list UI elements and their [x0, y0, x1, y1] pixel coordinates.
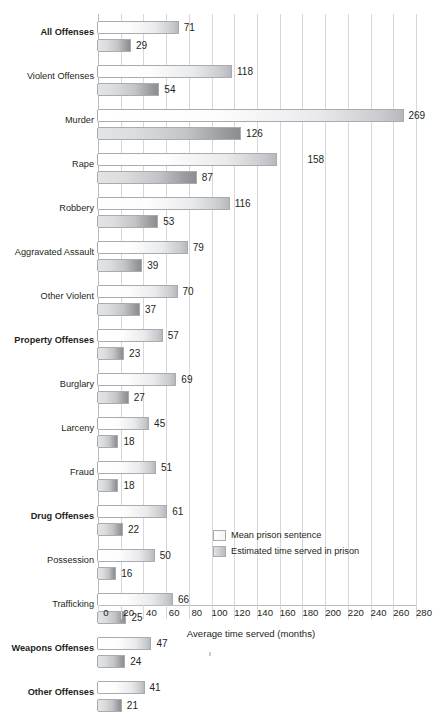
bar-left-edge — [97, 304, 98, 315]
chart-row: Weapons Offenses4724 — [98, 633, 416, 677]
legend-label: Mean prison sentence — [231, 530, 321, 540]
bar-left-edge — [97, 260, 98, 271]
bar-value-label: 41 — [150, 681, 161, 694]
bar-value-label: 70 — [183, 285, 194, 298]
bar-left-edge — [97, 286, 98, 297]
chart-row: Murder269126 — [98, 105, 416, 149]
chart-row: Violent Offenses11854 — [98, 61, 416, 105]
category-label: Possession — [0, 555, 94, 566]
x-tick-label-280: 280 — [416, 607, 432, 619]
bar-value-label: 118 — [237, 65, 253, 78]
bar-value-label: 57 — [168, 329, 179, 342]
bar-left-edge — [97, 374, 98, 385]
bar-served — [98, 435, 118, 448]
bar-value-label: 18 — [123, 435, 134, 448]
bar-left-edge — [97, 480, 98, 491]
x-tick-label-40: 40 — [146, 607, 157, 619]
bar-mean — [98, 461, 156, 474]
chart-row: Other Violent7037 — [98, 281, 416, 325]
category-label: Rape — [0, 159, 94, 170]
bar-served — [98, 479, 118, 492]
bar-value-label: 18 — [123, 479, 134, 492]
chart-row: Larceny4518 — [98, 413, 416, 457]
category-label: Drug Offenses — [0, 511, 94, 522]
bar-left-edge — [97, 436, 98, 447]
bar-value-label: 158 — [307, 153, 324, 166]
chart-row: All Offenses7129 — [98, 17, 416, 61]
legend-swatch — [213, 530, 226, 541]
bar-left-edge — [97, 506, 98, 517]
bar-value-label: 45 — [154, 417, 165, 430]
bar-mean — [98, 681, 145, 694]
bar-left-edge — [97, 40, 98, 51]
chart-legend: Mean prison sentenceEstimated time serve… — [213, 527, 359, 559]
plot-area: All Offenses7129Violent Offenses11854Mur… — [98, 14, 416, 605]
bar-mean — [98, 153, 277, 166]
legend-item: Mean prison sentence — [213, 527, 359, 543]
bar-value-label: 126 — [246, 127, 263, 140]
x-tick-label-260: 260 — [393, 607, 409, 619]
category-label: Other Offenses — [0, 687, 94, 698]
chart-row: Other Offenses4121 — [98, 677, 416, 716]
bar-left-edge — [97, 172, 98, 183]
bar-left-edge — [97, 392, 98, 403]
bar-left-edge — [97, 462, 98, 473]
bar-served — [98, 303, 140, 316]
bar-value-label: 53 — [163, 215, 174, 228]
category-label: Larceny — [0, 423, 94, 434]
bar-mean — [98, 549, 155, 562]
bar-left-edge — [97, 524, 98, 535]
chart-row: Rape15887 — [98, 149, 416, 193]
gridline-280 — [416, 14, 417, 605]
bar-value-label: 79 — [193, 241, 204, 254]
bar-value-label: 24 — [130, 655, 141, 668]
x-axis-title-text: Average time served (months) — [129, 628, 315, 639]
x-tick-label-240: 240 — [371, 607, 387, 619]
bar-served — [98, 127, 241, 140]
bar-served — [98, 83, 159, 96]
bar-mean — [98, 21, 179, 34]
x-tick-label-100: 100 — [212, 607, 228, 619]
bar-left-edge — [97, 66, 98, 77]
bar-served — [98, 39, 131, 52]
bar-left-edge — [97, 348, 98, 359]
chart-row: Fraud5118 — [98, 457, 416, 501]
legend-swatch — [213, 546, 226, 557]
category-label: Robbery — [0, 203, 94, 214]
bar-left-edge — [97, 154, 98, 165]
bar-left-edge — [97, 418, 98, 429]
bar-value-label: 22 — [128, 523, 139, 536]
bar-left-edge — [97, 594, 98, 605]
bar-left-edge — [97, 638, 98, 649]
bar-value-label: 71 — [184, 21, 195, 34]
bar-left-edge — [97, 330, 98, 341]
x-axis-ticks: 020406080100120140160180200220240260280 — [98, 607, 416, 623]
bar-value-label: 21 — [127, 699, 138, 712]
category-label: Trafficking — [0, 599, 94, 610]
category-label: Property Offenses — [0, 335, 94, 346]
bar-served — [98, 259, 142, 272]
x-tick-label-60: 60 — [169, 607, 180, 619]
x-tick-label-20: 20 — [123, 607, 134, 619]
category-label: Aggravated Assault — [0, 247, 94, 258]
bar-mean — [98, 329, 163, 342]
bar-left-edge — [97, 110, 98, 121]
x-tick-label-220: 220 — [348, 607, 364, 619]
bar-left-edge — [97, 22, 98, 33]
chart-row: Robbery11653 — [98, 193, 416, 237]
x-tick-mark-0 — [98, 605, 99, 619]
bar-served — [98, 391, 129, 404]
x-tick-mark-80 — [189, 605, 190, 619]
bar-served — [98, 523, 123, 536]
bar-served — [98, 699, 122, 712]
page-artifact — [209, 652, 211, 656]
chart-row: Burglary6927 — [98, 369, 416, 413]
bar-served — [98, 567, 116, 580]
bar-value-label: 54 — [164, 83, 175, 96]
bar-mean — [98, 241, 188, 254]
bar-left-edge — [97, 550, 98, 561]
bar-served — [98, 171, 197, 184]
bar-left-edge — [97, 656, 98, 667]
bar-value-label: 39 — [147, 259, 158, 272]
